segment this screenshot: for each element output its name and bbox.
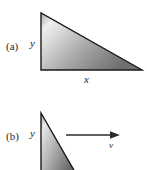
triangle-panel-a <box>41 13 142 70</box>
velocity-label-v: v <box>109 140 113 150</box>
axis-label-y-panel-a: y <box>30 37 35 49</box>
axis-label-y-panel-b: y <box>30 127 35 139</box>
triangle-panel-b <box>41 113 75 170</box>
panel-label-b: (b) <box>6 130 19 142</box>
velocity-arrow-icon <box>66 131 120 139</box>
axis-label-x-panel-a: x <box>84 73 89 85</box>
figure-container: (a) y x (b) y v <box>0 0 147 170</box>
panel-label-a: (a) <box>6 40 18 52</box>
figure-graphics-layer <box>0 0 147 170</box>
